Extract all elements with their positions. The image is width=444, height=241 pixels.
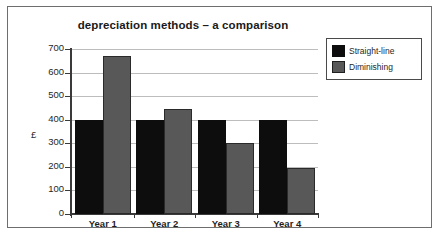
bar-diminishing-year-4 xyxy=(287,168,315,214)
chart-title: depreciation methods – a comparison xyxy=(58,19,308,31)
bar-straight-line-year-1 xyxy=(75,120,103,214)
x-axis-tick-label: Year 1 xyxy=(72,218,134,229)
x-axis-tick-label: Year 2 xyxy=(134,218,196,229)
bar-diminishing-year-1 xyxy=(103,56,131,214)
x-axis-tick-label: Year 4 xyxy=(257,218,319,229)
legend-swatch-icon xyxy=(332,45,345,57)
bar-straight-line-year-4 xyxy=(259,120,287,214)
x-axis-tick-mark xyxy=(318,213,319,218)
y-axis-tick-label: 200 xyxy=(34,160,64,171)
x-axis-tick-mark xyxy=(71,213,72,218)
legend-item: Diminishing xyxy=(332,59,417,75)
chart-frame: depreciation methods – a comparison 0100… xyxy=(7,6,432,228)
bar-diminishing-year-2 xyxy=(164,109,192,214)
y-axis-tick-label: 300 xyxy=(34,136,64,147)
y-axis-tick-labels: 0100200300400500600700 xyxy=(30,7,64,241)
y-axis-tick-label: 100 xyxy=(34,183,64,194)
bar-straight-line-year-2 xyxy=(136,120,164,214)
gridline xyxy=(72,49,318,50)
legend-swatch-icon xyxy=(332,61,345,73)
y-axis-tick-label: 400 xyxy=(34,113,64,124)
bar-straight-line-year-3 xyxy=(198,120,226,214)
y-axis-tick-label: 500 xyxy=(34,89,64,100)
y-axis-tick-label: 700 xyxy=(34,42,64,53)
plot-area xyxy=(72,49,318,214)
chart-legend: Straight-lineDiminishing xyxy=(326,38,422,80)
legend-item: Straight-line xyxy=(332,43,417,59)
legend-label: Straight-line xyxy=(349,46,394,56)
bar-diminishing-year-3 xyxy=(226,143,254,214)
y-axis-title: £ xyxy=(31,129,36,140)
y-axis-tick-label: 600 xyxy=(34,66,64,77)
legend-label: Diminishing xyxy=(349,62,393,72)
y-axis-tick-label: 0 xyxy=(34,207,64,218)
x-axis-tick-label: Year 3 xyxy=(195,218,257,229)
